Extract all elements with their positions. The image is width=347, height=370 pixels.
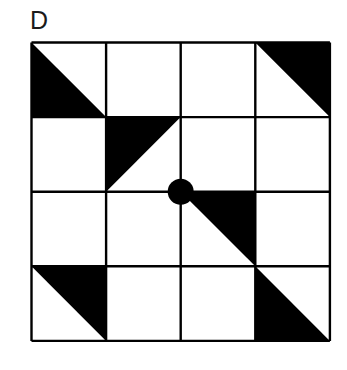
figure-label: D <box>30 6 49 34</box>
figure-panel: D <box>0 0 347 370</box>
center-dot <box>168 179 194 205</box>
center-dot-layer <box>168 179 194 205</box>
pattern-grid <box>30 41 333 345</box>
pattern-grid-svg <box>30 41 333 345</box>
